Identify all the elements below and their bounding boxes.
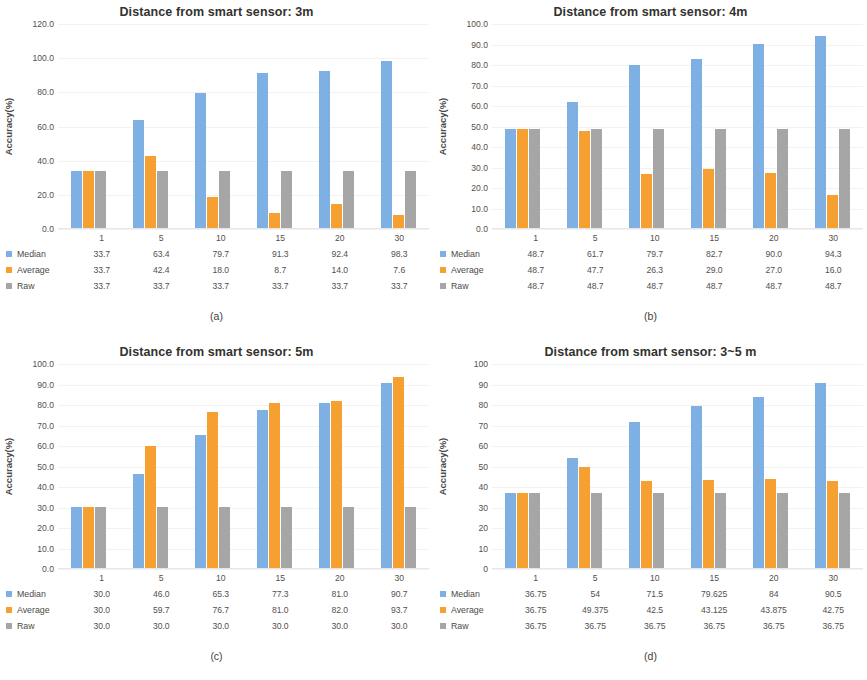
bar-groups-d — [492, 364, 863, 568]
legend-label: Raw — [17, 281, 35, 291]
x-axis-category-label: 10 — [625, 573, 685, 583]
legend-label: Average — [17, 265, 50, 275]
legend-item-average: Average — [0, 265, 72, 275]
table-cell-value: 7.6 — [370, 265, 430, 275]
bar-median — [133, 474, 144, 568]
table-row-categories: 1510152030 — [0, 570, 433, 586]
table-cells: 1510152030 — [72, 573, 433, 583]
table-cell-value: 79.7 — [191, 249, 251, 259]
table-cell-value: 63.4 — [132, 249, 192, 259]
y-tick-label: 100.0 — [466, 19, 488, 29]
table-row: Average48.747.726.329.027.016.0 — [434, 262, 867, 278]
bar-average — [331, 401, 342, 568]
bar-average — [207, 197, 218, 228]
table-cell-value: 33.7 — [310, 281, 370, 291]
chart-panel-b: Distance from smart sensor: 4m Accuracy(… — [434, 0, 867, 340]
bar-average — [517, 129, 528, 228]
y-tick-label: 20 — [478, 523, 488, 533]
bar-average — [393, 215, 404, 228]
table-cell-value: 36.75 — [744, 621, 804, 631]
bar-raw — [343, 171, 354, 228]
bar-average — [269, 403, 280, 568]
x-axis-category-label: 10 — [625, 233, 685, 243]
table-cell-value: 43.875 — [744, 605, 804, 615]
chart-title-a: Distance from smart sensor: 3m — [0, 0, 433, 22]
table-cell-value: 30.0 — [310, 621, 370, 631]
table-row-categories: 1510152030 — [434, 570, 867, 586]
table-cell-value: 29.0 — [685, 265, 745, 275]
table-cell-value: 84 — [744, 589, 804, 599]
y-tick-label: 10.0 — [37, 544, 54, 554]
y-tick-label: 40.0 — [471, 142, 488, 152]
bar-average — [145, 446, 156, 568]
bar-median — [815, 383, 826, 568]
bar-average — [83, 171, 94, 228]
chart-panel-d: Distance from smart sensor: 3~5 m Accura… — [434, 340, 867, 680]
y-tick-label: 40 — [478, 482, 488, 492]
table-cells: 48.761.779.782.790.094.3 — [506, 249, 867, 259]
y-tick-label: 80.0 — [37, 87, 54, 97]
table-cells: 30.030.030.030.030.030.0 — [72, 621, 433, 631]
x-axis-category-label: 1 — [72, 233, 132, 243]
y-tick-label: 70 — [478, 421, 488, 431]
table-cell-value: 90.0 — [744, 249, 804, 259]
y-tick-label: 40.0 — [37, 156, 54, 166]
data-table-a: 1510152030Median33.763.479.791.392.498.3… — [0, 230, 433, 294]
table-cell-value: 49.375 — [566, 605, 626, 615]
legend-item-median: Median — [0, 249, 72, 259]
bar-average — [269, 213, 280, 228]
bar-group — [492, 364, 554, 568]
y-tick-label: 50 — [478, 462, 488, 472]
x-axis-category-label: 1 — [72, 573, 132, 583]
bar-raw — [219, 171, 230, 228]
bar-average — [579, 467, 590, 568]
table-cell-value: 36.75 — [506, 621, 566, 631]
bar-group — [739, 24, 801, 228]
plot-canvas-d — [492, 364, 863, 569]
y-axis-ticks-d: 0102030405060708090100 — [448, 364, 492, 569]
plot-area-c: Accuracy(%) 0.010.020.030.040.050.060.07… — [0, 364, 433, 569]
y-tick-label: 30 — [478, 503, 488, 513]
bar-median — [195, 435, 206, 568]
bar-raw — [281, 507, 292, 568]
bar-raw — [777, 129, 788, 228]
table-cell-value: 47.7 — [566, 265, 626, 275]
legend-label: Raw — [17, 621, 35, 631]
y-tick-label: 90.0 — [471, 40, 488, 50]
bar-group — [554, 24, 616, 228]
legend-item-raw: Raw — [0, 621, 72, 631]
x-axis-category-label: 5 — [566, 233, 626, 243]
y-tick-label: 80.0 — [37, 400, 54, 410]
y-tick-label: 10.0 — [471, 204, 488, 214]
table-cell-value: 30.0 — [370, 621, 430, 631]
y-axis-ticks-c: 0.010.020.030.040.050.060.070.080.090.01… — [14, 364, 58, 569]
bar-group — [243, 24, 305, 228]
table-cell-value: 48.7 — [744, 281, 804, 291]
table-cell-value: 16.0 — [804, 265, 864, 275]
legend-item-raw: Raw — [0, 281, 72, 291]
table-cell-value: 36.75 — [566, 621, 626, 631]
legend-label: Average — [451, 605, 484, 615]
legend-item-median: Median — [434, 249, 506, 259]
bar-group — [182, 24, 244, 228]
bar-raw — [715, 129, 726, 228]
table-row: Average30.059.776.781.082.093.7 — [0, 602, 433, 618]
bar-median — [629, 65, 640, 228]
x-axis-category-label: 5 — [132, 573, 192, 583]
chart-panel-c: Distance from smart sensor: 5m Accuracy(… — [0, 340, 433, 680]
table-cells: 48.748.748.748.748.748.7 — [506, 281, 867, 291]
legend-item-median: Median — [0, 589, 72, 599]
bar-average — [145, 156, 156, 228]
x-axis-line-a — [58, 228, 429, 229]
bar-group — [120, 24, 182, 228]
bar-average — [827, 481, 838, 568]
bar-group — [554, 364, 616, 568]
y-tick-label: 20.0 — [37, 190, 54, 200]
bar-group — [305, 24, 367, 228]
table-cell-value: 30.0 — [191, 621, 251, 631]
y-tick-label: 50.0 — [471, 122, 488, 132]
bar-average — [765, 479, 776, 569]
legend-swatch-icon — [6, 607, 12, 613]
bar-median — [133, 120, 144, 228]
y-tick-label: 90.0 — [37, 380, 54, 390]
